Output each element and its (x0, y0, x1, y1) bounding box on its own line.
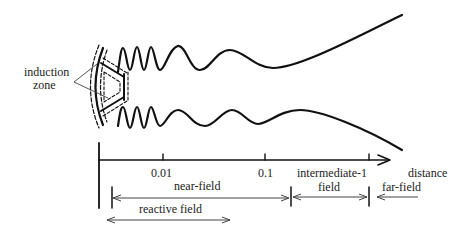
field-regions-diagram: induction zone 0.01 0.1 intermediate-1 f… (0, 0, 476, 240)
tick-label-0.01: 0.01 (151, 166, 172, 180)
far-field-arrow (377, 194, 418, 200)
axis-label-distance: distance (408, 166, 447, 180)
intermediate-field-arrow (293, 194, 367, 200)
induction-zone-label-line2: zone (33, 78, 56, 92)
induction-zone-label-line1: induction (24, 65, 69, 79)
reactive-field-label: reactive field (139, 202, 202, 216)
tick-label-0.1: 0.1 (258, 166, 273, 180)
far-field-label: far-field (382, 180, 421, 194)
reactive-field-arrow (107, 217, 230, 223)
near-field-arrow (113, 195, 289, 201)
near-field-label: near-field (174, 179, 220, 193)
upper-beam-envelope (118, 15, 402, 72)
intermediate-field-label-line1: intermediate-1 (297, 166, 367, 180)
antenna-icon (91, 45, 129, 128)
lower-beam-envelope (118, 107, 402, 150)
intermediate-field-label-line2: field (318, 180, 340, 194)
